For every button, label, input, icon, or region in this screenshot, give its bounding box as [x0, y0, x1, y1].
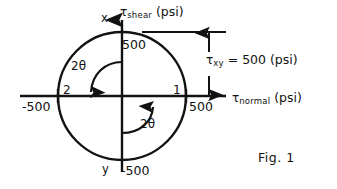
value-label-shear-top: 500 [122, 39, 146, 52]
tau-xy-annotation: τxy = 500 (psi) [206, 54, 298, 67]
x-axis-tip-label: x [101, 13, 108, 25]
tau-xy-value: = 500 (psi) [228, 52, 298, 67]
shear-axis-title: τshear (psi) [120, 6, 184, 19]
tau-subscript-normal: normal [239, 96, 270, 106]
y-axis-bottom-label: y [102, 164, 109, 176]
figure-caption: Fig. 1 [258, 152, 295, 165]
normal-units: (psi) [274, 90, 302, 105]
point-label-one: 1 [173, 84, 181, 96]
value-label-shear-bottom: -500 [121, 165, 149, 178]
tau-subscript-shear: shear [127, 10, 152, 20]
angle-label-lower: 2θ [140, 118, 155, 130]
mohrs-circle-figure: τshear (psi) τnormal (psi) x y 500 -500 … [0, 0, 337, 189]
tau-subscript-xy: xy [213, 58, 223, 68]
normal-axis-title: τnormal (psi) [232, 92, 302, 105]
angle-arc-upper [91, 62, 122, 92]
point-label-two: 2 [63, 84, 71, 96]
value-label-normal-right: 500 [189, 101, 213, 114]
shear-units: (psi) [156, 4, 184, 19]
value-label-normal-left: -500 [22, 101, 50, 114]
angle-label-upper: 2θ [71, 60, 86, 72]
